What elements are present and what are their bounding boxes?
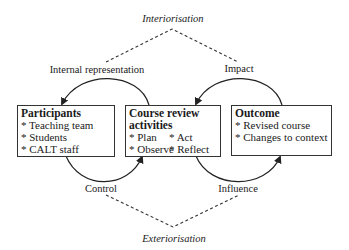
impact-label: Impact xyxy=(224,63,253,75)
exteriorisation-label: Exteriorisation xyxy=(142,233,206,245)
participants-item: * CALT staff xyxy=(21,143,111,155)
outcome-item: * Revised course xyxy=(235,119,328,131)
interiorisation-label: Interiorisation xyxy=(142,13,203,25)
interiorisation-dashed-line xyxy=(106,29,238,62)
participants-title: Participants xyxy=(21,107,111,119)
influence-arrow xyxy=(196,156,280,182)
internal-representation-label: Internal representation xyxy=(50,64,145,76)
course-review-title-line2: activities xyxy=(129,119,217,131)
participants-box: Participants * Teaching team * Students … xyxy=(17,105,115,157)
course-review-box: Course review activities * Plan * Act * … xyxy=(125,105,221,157)
participants-item: * Students xyxy=(21,131,111,143)
control-arrow xyxy=(66,156,142,182)
course-review-item-act: * Act xyxy=(169,131,217,143)
course-review-item-plan: * Plan xyxy=(129,131,169,143)
internal-representation-arrow xyxy=(62,79,149,105)
control-label: Control xyxy=(85,183,117,195)
course-review-title-line1: Course review xyxy=(129,107,217,119)
outcome-title: Outcome xyxy=(235,107,328,119)
course-review-item-observe: * Observe xyxy=(129,143,169,155)
outcome-item: * Changes to context xyxy=(235,131,328,143)
exteriorisation-dashed-line xyxy=(106,195,239,227)
participants-item: * Teaching team xyxy=(21,119,111,131)
impact-arrow xyxy=(196,79,282,105)
course-review-item-reflect: * Reflect xyxy=(169,143,217,155)
outcome-box: Outcome * Revised course * Changes to co… xyxy=(231,105,332,156)
influence-label: Influence xyxy=(218,183,258,195)
